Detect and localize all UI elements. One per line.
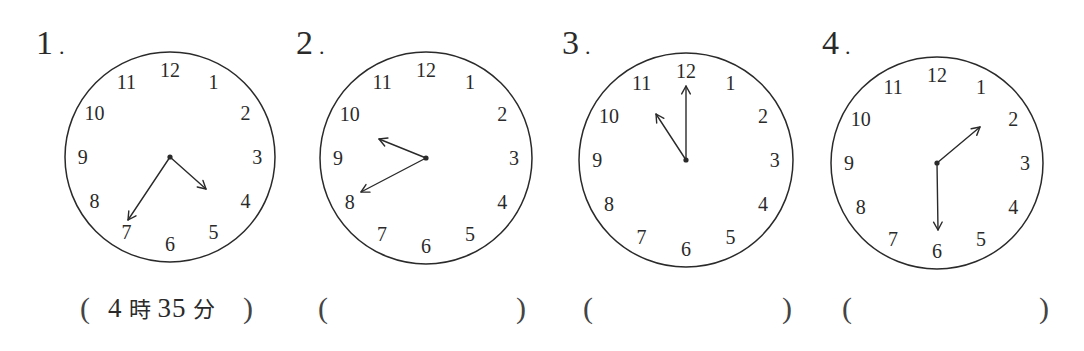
clock-numeral-3: 3 (1020, 152, 1030, 174)
clock-numeral-6: 6 (932, 240, 942, 262)
clock-numeral-11: 11 (883, 76, 902, 98)
center-pivot (934, 160, 939, 165)
clock-numeral-8: 8 (856, 196, 866, 218)
clock-numeral-5: 5 (976, 228, 986, 250)
analog-clock: 121234567891011 (0, 0, 1084, 351)
clock-numeral-9: 9 (844, 152, 854, 174)
clock-numeral-1: 1 (976, 76, 986, 98)
clock-numeral-4: 4 (1008, 196, 1018, 218)
clock-numeral-10: 10 (851, 108, 871, 130)
close-paren: ) (1039, 293, 1049, 323)
clock-numeral-12: 12 (927, 64, 947, 86)
open-paren: ( (842, 293, 852, 323)
clock-numeral-2: 2 (1008, 108, 1018, 130)
clock-numeral-7: 7 (888, 228, 898, 250)
